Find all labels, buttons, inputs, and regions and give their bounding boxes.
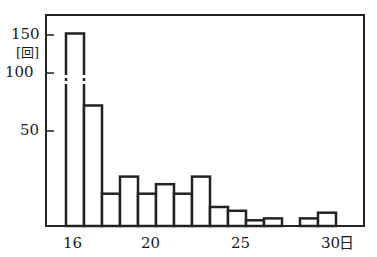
y-label-50: 50 [20, 123, 39, 138]
x-unit-label: 日 [339, 236, 354, 251]
bar-day-24 [210, 207, 228, 226]
y-unit-label: [回] [16, 45, 39, 60]
bar-day-29 [300, 218, 318, 226]
x-label-16: 16 [63, 236, 82, 251]
bar-day-17 [84, 105, 102, 226]
bar-day-21 [156, 184, 174, 226]
bar-day-27 [264, 218, 282, 226]
x-label-30: 30 [321, 236, 340, 251]
y-label-150: 150 [11, 27, 40, 42]
bar-day-30 [318, 213, 336, 226]
x-label-25: 25 [231, 236, 250, 251]
x-label-20: 20 [141, 236, 160, 251]
bar-day-20 [138, 194, 156, 226]
axis-break-gap-2 [62, 81, 88, 84]
y-label-100: 100 [5, 65, 34, 80]
bar-day-19 [120, 177, 138, 226]
bar-day-22 [174, 194, 192, 226]
chart-svg [0, 0, 377, 257]
bar-day-16 [66, 33, 84, 226]
histogram-chart: 150 [回] 100 50 16 20 25 30 日 [0, 0, 377, 257]
bar-day-25 [228, 211, 246, 226]
axis-break-gap-1 [62, 75, 88, 78]
bars [66, 33, 336, 226]
bar-day-18 [102, 194, 120, 226]
bar-day-23 [192, 177, 210, 226]
